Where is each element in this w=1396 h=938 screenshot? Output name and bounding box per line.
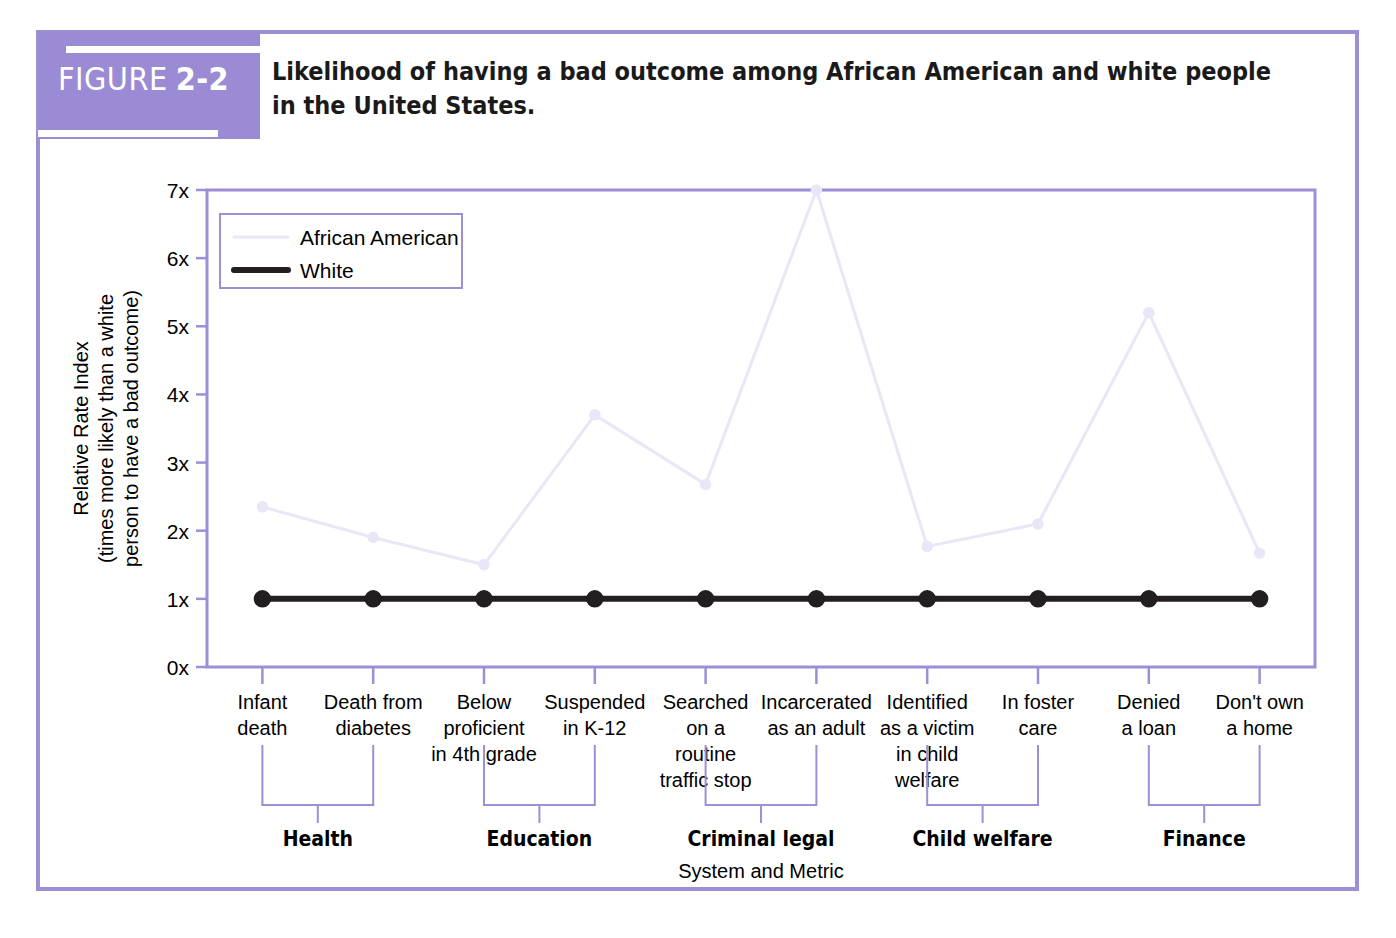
figure-title-line-2: United States. [353, 91, 535, 120]
figure-number-text: FIGURE2-2 [58, 60, 258, 98]
figure-title: Likelihood of having a bad outcome among… [272, 55, 1302, 123]
badge-rule-top [66, 46, 260, 53]
figure-root: FIGURE2-2 Likelihood of having a bad out… [0, 0, 1396, 938]
figure-number: 2-2 [176, 60, 230, 98]
figure-outer-border [36, 30, 1359, 891]
badge-rule-bottom [38, 130, 218, 137]
figure-word: FIGURE [58, 60, 168, 98]
